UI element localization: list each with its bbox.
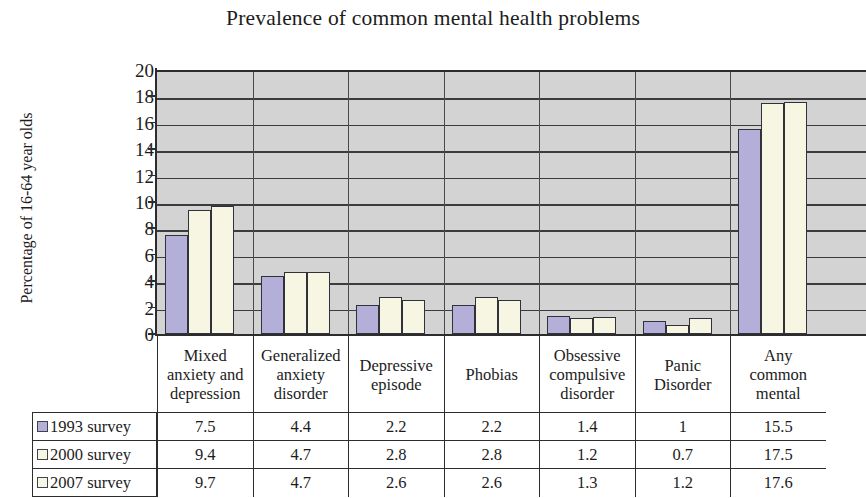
bar-0-0 (165, 235, 188, 334)
legend-swatch-icon (37, 449, 48, 460)
table-header-line: disorder (560, 384, 614, 403)
table-header-line: mental (756, 384, 801, 403)
table-value-cell: 1.3 (539, 468, 635, 496)
table-header-line: disorder (274, 384, 328, 403)
y-tick-label: 20 (112, 61, 154, 80)
bar-0-5 (643, 321, 666, 334)
bar-2-3 (498, 300, 521, 334)
bar-2-2 (402, 300, 425, 334)
table-header-line: Generalized (261, 346, 341, 365)
table-value-cell: 2.6 (444, 468, 540, 496)
table-header-cell: PanicDisorder (635, 336, 731, 412)
bar-0-6 (738, 129, 761, 334)
bar-2-1 (307, 272, 330, 334)
category-divider (253, 72, 254, 334)
category-divider (730, 72, 731, 334)
y-tick-mark (148, 307, 156, 309)
bar-1-0 (188, 210, 211, 334)
table-value-cell: 2.2 (444, 412, 540, 440)
bar-1-4 (570, 318, 593, 334)
table-header-line: anxiety and (167, 365, 244, 384)
table-value-cell: 15.5 (730, 412, 826, 440)
table-header-line: Any (764, 346, 792, 365)
y-tick-mark (148, 175, 156, 177)
category-divider (635, 72, 636, 334)
data-table: Mixedanxiety anddepressionGeneralizedanx… (32, 336, 866, 498)
table-value-cell: 17.6 (730, 468, 826, 496)
table-value-cell: 9.4 (157, 440, 253, 468)
table-value-cell: 1 (635, 412, 731, 440)
bar-2-0 (211, 206, 234, 334)
bar-0-1 (261, 276, 284, 334)
y-tick-mark (148, 280, 156, 282)
table-value-cell: 7.5 (157, 412, 253, 440)
table-header-line: Obsessive (554, 346, 621, 365)
table-header-line: Phobias (466, 365, 518, 384)
table-header-cell: Phobias (444, 336, 540, 412)
table-header-line: Mixed (184, 346, 227, 365)
legend-item-0[interactable]: 1993 survey (32, 412, 157, 440)
bar-1-3 (475, 297, 498, 334)
legend-item-1[interactable]: 2000 survey (32, 440, 157, 468)
bar-0-4 (547, 316, 570, 334)
y-tick-mark (148, 201, 156, 203)
table-value-cell: 1.2 (539, 440, 635, 468)
table-header-cell: Anycommonmental (730, 336, 826, 412)
category-divider (539, 72, 540, 334)
table-value-cell: 4.7 (253, 440, 349, 468)
table-header-line: compulsive (549, 365, 625, 384)
table-value-cell: 2.8 (348, 440, 444, 468)
page-title: Prevalence of common mental health probl… (0, 6, 866, 31)
gridline (157, 98, 866, 100)
table-header-line: common (749, 365, 807, 384)
bar-1-1 (284, 272, 307, 334)
y-tick-mark (148, 148, 156, 150)
legend-swatch-icon (37, 477, 48, 488)
category-divider (444, 72, 445, 334)
y-tick-mark (148, 254, 156, 256)
legend-item-2[interactable]: 2007 survey (32, 468, 157, 496)
bar-1-5 (666, 325, 689, 334)
y-tick-mark (148, 95, 156, 97)
table-value-cell: 17.5 (730, 440, 826, 468)
table-value-cell: 1.4 (539, 412, 635, 440)
table-header-line: Disorder (654, 375, 712, 394)
bar-2-6 (784, 102, 807, 334)
legend-label: 1993 survey (50, 417, 131, 436)
bar-1-2 (379, 297, 402, 334)
table-value-cell: 2.6 (348, 468, 444, 496)
table-header-cell: Mixedanxiety anddepression (157, 336, 253, 412)
table-value-cell: 9.7 (157, 468, 253, 496)
table-value-cell: 4.4 (253, 412, 349, 440)
y-tick-mark (148, 227, 156, 229)
legend-label: 2000 survey (50, 445, 131, 464)
table-value-cell: 4.7 (253, 468, 349, 496)
table-value-cell: 0.7 (635, 440, 731, 468)
table-header-cell: Generalizedanxietydisorder (253, 336, 349, 412)
bar-2-4 (593, 317, 616, 334)
bar-1-6 (761, 103, 784, 334)
table-value-cell: 2.8 (444, 440, 540, 468)
plot-area (157, 70, 866, 334)
table-header-line: Depressive (360, 356, 433, 375)
table-header-line: Panic (664, 356, 701, 375)
y-tick-mark (148, 333, 156, 335)
legend-swatch-icon (37, 421, 48, 432)
table-header-line: episode (371, 375, 421, 394)
table-header-cell: Depressiveepisode (348, 336, 444, 412)
bar-0-3 (452, 305, 475, 334)
table-header-line: depression (170, 384, 241, 403)
legend-label: 2007 survey (50, 473, 131, 492)
y-axis-label: Percentage of 16-64 year olds (18, 63, 36, 353)
table-value-cell: 1.2 (635, 468, 731, 496)
table-header-line: anxiety (276, 365, 325, 384)
table-value-cell: 2.2 (348, 412, 444, 440)
gridline (157, 125, 866, 127)
table-header-cell: Obsessivecompulsivedisorder (539, 336, 635, 412)
bar-2-5 (689, 318, 712, 334)
y-tick-mark (148, 122, 156, 124)
bar-0-2 (356, 305, 379, 334)
category-divider (348, 72, 349, 334)
